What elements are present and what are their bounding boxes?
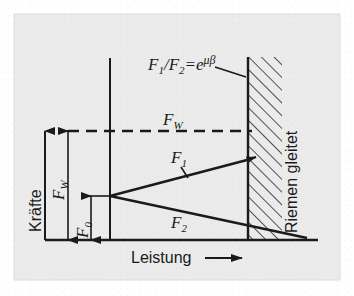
fw-dimension-label-sub: W [58,180,70,190]
diagram-canvas: F1/F2=eμβ FW F1 F2 FW F0 Kräfte Leistung… [0,0,354,296]
fw-line-label-sub: W [173,119,183,131]
y-axis-label: Kräfte [27,189,44,232]
curve-f1-label-base: F [170,148,182,167]
curve-f2-label-base: F [170,213,182,232]
fw-dimension-label-base: F [49,189,68,201]
f0-dimension-label-base: F [73,227,92,239]
curve-f1-label-sub: 1 [181,157,187,169]
x-axis-label: Leistung [131,249,192,266]
slip-region-label: Riemen gleitet [283,130,300,233]
belt-force-diagram: F1/F2=eμβ FW F1 F2 FW F0 Kräfte Leistung… [0,0,354,296]
ratio-formula-equals: =e [185,55,204,74]
slip-region-hatching [248,57,282,240]
ratio-formula-exponent: μβ [203,53,216,67]
f0-dimension-label-sub: 0 [82,222,94,228]
fw-line-label-base: F [162,110,174,129]
ratio-formula-f1-base: F [147,55,159,74]
curve-f2-label-sub: 2 [181,222,187,234]
ratio-formula-f2-base: F [168,55,180,74]
